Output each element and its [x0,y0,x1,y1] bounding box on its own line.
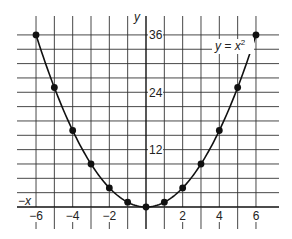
x-tick-label: 2 [179,209,186,223]
data-point [124,199,131,206]
data-point [234,84,241,91]
x-tick-label: 6 [253,209,260,223]
data-point [198,161,205,168]
y-tick-label: 12 [149,143,163,157]
x-tick-label: −6 [29,209,43,223]
y-tick-label: 36 [149,28,163,42]
data-point [33,32,40,39]
x-tick-label: 4 [216,209,223,223]
parabola-chart: −6−4−2246122436 y −x y = x2 [0,0,292,239]
data-point [88,161,95,168]
axis-labels: −6−4−2246122436 [29,28,259,223]
data-point [51,84,58,91]
data-point [69,127,76,134]
x-tick-label: −2 [102,209,116,223]
y-tick-label: 24 [149,86,163,100]
y-axis-label: y [133,10,141,24]
data-point [216,127,223,134]
data-point [253,32,260,39]
data-point [179,184,186,191]
data-point [106,184,113,191]
data-point [143,204,150,211]
data-point [161,199,168,206]
x-tick-label: −4 [66,209,80,223]
negative-x-axis-label: −x [18,194,32,208]
